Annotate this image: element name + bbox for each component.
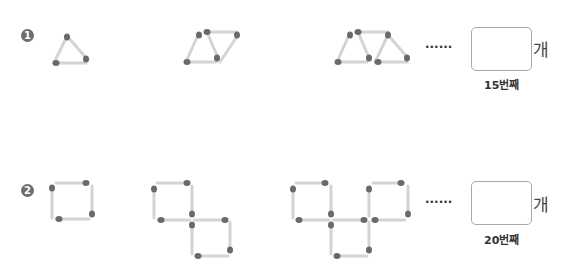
answer-box-1[interactable] — [471, 27, 532, 71]
answer-box-2[interactable] — [471, 181, 532, 225]
square-figure-2 — [151, 180, 233, 259]
unit-label-1: 개 — [533, 36, 549, 61]
unit-label-2: 개 — [533, 191, 549, 216]
square-figure-3 — [290, 180, 411, 259]
triangle-figure-3 — [335, 29, 411, 65]
caption-label-2: 20번째 — [484, 231, 519, 247]
ellipsis-2: ······ — [425, 195, 452, 209]
triangle-figure-1 — [53, 34, 90, 67]
ellipsis-1: ······ — [425, 40, 452, 54]
triangle-figure-2 — [184, 29, 241, 65]
caption-label-1: 15번째 — [484, 76, 519, 92]
square-figure-1 — [49, 180, 95, 222]
